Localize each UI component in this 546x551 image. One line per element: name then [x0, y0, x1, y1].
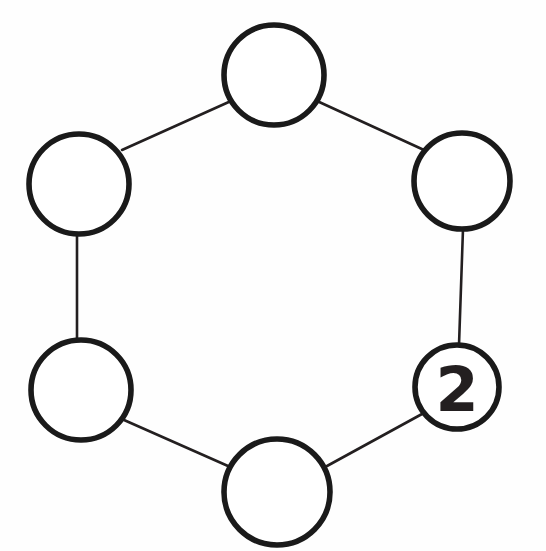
graph-edge-bottom-lower-left: [124, 420, 228, 466]
node-circle-top[interactable]: [224, 25, 324, 125]
node-label-lower-right: 2: [435, 353, 478, 426]
diagram-canvas: 2: [0, 0, 546, 551]
graph-edges-layer: [77, 101, 463, 466]
node-circle-upper-right[interactable]: [414, 133, 510, 229]
graph-node-upper-right[interactable]: [414, 133, 510, 229]
graph-edge-lower-right-bottom: [327, 414, 422, 466]
graph-node-lower-right[interactable]: 2: [415, 345, 499, 429]
node-circle-bottom[interactable]: [224, 439, 330, 545]
graph-node-top[interactable]: [224, 25, 324, 125]
graph-node-bottom[interactable]: [224, 439, 330, 545]
cycle-graph-diagram: 2: [0, 0, 546, 551]
graph-edge-upper-left-top: [122, 101, 231, 150]
graph-node-upper-left[interactable]: [29, 134, 129, 234]
graph-edge-upper-right-lower-right: [459, 229, 463, 345]
node-circle-upper-left[interactable]: [29, 134, 129, 234]
graph-edge-top-upper-right: [317, 101, 424, 150]
node-circle-lower-left[interactable]: [31, 340, 131, 440]
graph-nodes-layer: 2: [29, 25, 510, 545]
graph-node-lower-left[interactable]: [31, 340, 131, 440]
